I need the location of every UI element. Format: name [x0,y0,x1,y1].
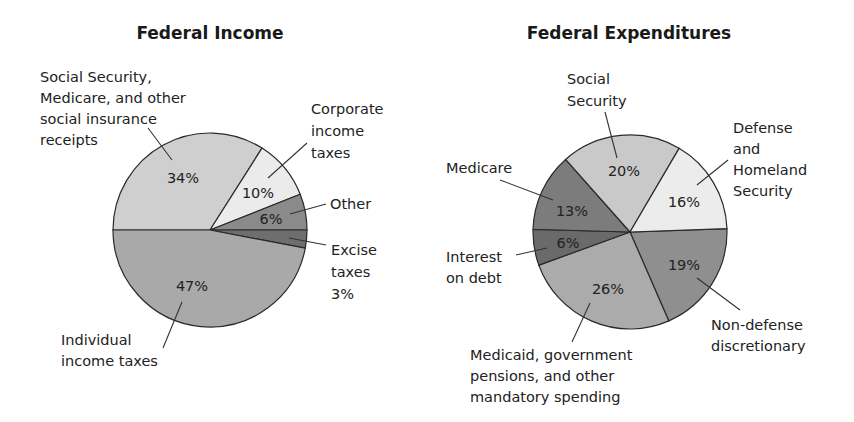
exp-label-medicare: Medicare [446,160,512,176]
exp-pct-medicaid: 26% [592,281,624,297]
income-label-social-4: receipts [40,132,98,148]
exp-label-defense-2: and [733,141,760,157]
pie-slice-individual-income-taxes [113,230,305,327]
income-label-social-1: Social Security, [40,69,152,85]
income-label-excise-1: Excise [331,242,377,258]
income-label-corporate-1: Corporate [311,101,384,117]
exp-label-defense-1: Defense [733,120,793,136]
income-pie [113,133,307,327]
income-title: Federal Income [136,23,283,43]
income-label-other: Other [330,196,371,212]
income-label-corporate-2: income [311,123,364,139]
exp-pct-medicare: 13% [556,203,588,219]
exp-pct-defense: 16% [668,194,700,210]
exp-label-nondefense-2: discretionary [711,338,806,354]
income-label-individual-2: income taxes [61,353,158,369]
exp-label-defense-4: Security [733,183,793,199]
exp-label-ss-1: Social [567,71,610,87]
exp-pct-social-security: 20% [608,163,640,179]
exp-label-interest-1: Interest [446,249,502,265]
income-pct-other: 6% [259,211,282,227]
expenditures-title: Federal Expenditures [527,23,731,43]
exp-label-nondefense-1: Non-defense [711,317,803,333]
income-label-excise-2: taxes [331,264,370,280]
income-label-social-3: social insurance [40,111,157,127]
income-label-corporate-3: taxes [311,145,350,161]
income-pct-individual: 47% [176,278,208,294]
income-pct-social: 34% [167,170,199,186]
exp-label-medicaid-3: mandatory spending [470,389,621,405]
income-pct-corporate: 10% [242,185,274,201]
exp-label-ss-2: Security [567,93,627,109]
expenditures-chart: Federal Expenditures 20% 16% 13% 6% 19% … [446,23,807,405]
income-label-individual-1: Individual [61,332,132,348]
income-label-excise-3: 3% [331,286,354,302]
exp-label-interest-2: on debt [446,270,502,286]
income-label-social-2: Medicare, and other [40,90,186,106]
exp-label-medicaid-1: Medicaid, government [470,347,633,363]
exp-label-medicaid-2: pensions, and other [470,368,614,384]
charts-canvas: Federal Income 34% 10% 6% 47% Social Sec… [0,0,854,422]
exp-pct-interest: 6% [556,235,579,251]
exp-label-defense-3: Homeland [733,162,807,178]
exp-pct-nondefense: 19% [668,257,700,273]
income-chart: Federal Income 34% 10% 6% 47% Social Sec… [40,23,384,369]
